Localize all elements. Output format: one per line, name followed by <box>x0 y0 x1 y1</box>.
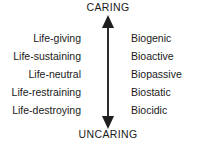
axis-bottom-label-text: UNCARING <box>79 129 138 140</box>
list-item: Biostatic <box>131 83 200 101</box>
list-item: Biogenic <box>131 29 200 47</box>
list-item: Life-restraining <box>0 83 81 101</box>
axis-top-label: CARING <box>0 2 200 13</box>
list-item: Bioactive <box>131 47 200 65</box>
list-item: Life-giving <box>0 29 81 47</box>
right-term-column: Biogenic Bioactive Biopassive Biostatic … <box>131 29 200 119</box>
list-item: Life-sustaining <box>0 47 81 65</box>
double-headed-arrow-icon <box>98 15 118 129</box>
axis-top-label-text: CARING <box>87 2 130 13</box>
left-descriptor-column: Life-giving Life-sustaining Life-neutral… <box>0 29 81 119</box>
list-item: Biopassive <box>131 65 200 83</box>
list-item: Biocidic <box>131 101 200 119</box>
axis-bottom-label: UNCARING <box>0 129 200 140</box>
caring-uncaring-scale-diagram: CARING Life-giving Life-sustaining Life-… <box>0 0 200 148</box>
list-item: Life-destroying <box>0 101 81 119</box>
list-item: Life-neutral <box>0 65 81 83</box>
